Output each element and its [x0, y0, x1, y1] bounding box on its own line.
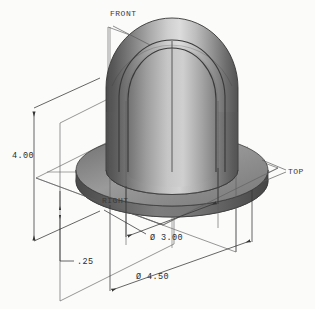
isometric-part-drawing: FRONT TOP RIGHT 4.00 .25 Ø 3.00: [0, 0, 315, 309]
dimension-label-flange: Ø 4.50: [136, 272, 169, 282]
flange-dim-line: [112, 241, 250, 290]
plane-label-right: RIGHT: [102, 196, 129, 205]
height-extension-top: [34, 78, 100, 108]
dimension-label-height: 4.00: [12, 151, 34, 161]
plane-label-top: TOP: [288, 167, 304, 176]
dimension-label-bore: Ø 3.00: [150, 233, 183, 243]
cad-drawing-canvas: FRONT TOP RIGHT 4.00 .25 Ø 3.00: [0, 0, 315, 309]
plane-label-front: FRONT: [110, 9, 137, 18]
dimension-label-thickness: .25: [77, 257, 94, 267]
height-extension-bottom: [34, 211, 100, 241]
